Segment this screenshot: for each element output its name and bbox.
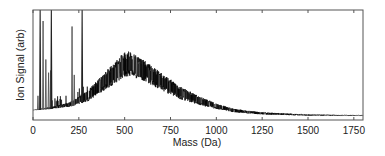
x-tick-label: 1750 bbox=[343, 125, 366, 136]
spectrum-peak bbox=[45, 60, 46, 110]
x-tick-label: 750 bbox=[162, 125, 179, 136]
x-tick-label: 1000 bbox=[205, 125, 228, 136]
x-tick-label: 1250 bbox=[251, 125, 274, 136]
x-tick-label: 500 bbox=[116, 125, 133, 136]
x-axis-ticks: 02505007501000125015001750 bbox=[30, 10, 365, 136]
spectrum-peak bbox=[51, 10, 52, 109]
spectrum-peak bbox=[74, 75, 75, 106]
x-tick-label: 250 bbox=[70, 125, 87, 136]
spectrum-peak bbox=[72, 27, 73, 107]
spectrum-peak bbox=[37, 96, 38, 110]
spectrum-peak bbox=[40, 10, 41, 110]
x-tick-label: 1500 bbox=[297, 125, 320, 136]
mass-spectrum-chart: 02505007501000125015001750 Mass (Da) Ion… bbox=[0, 0, 385, 156]
x-tick-label: 0 bbox=[30, 125, 36, 136]
x-axis-label: Mass (Da) bbox=[173, 136, 221, 148]
spectrum-peak bbox=[43, 21, 44, 109]
y-axis-label: Ion Signal (arb) bbox=[14, 29, 26, 101]
spectrum-peak bbox=[48, 73, 49, 109]
spectrum-trace bbox=[33, 10, 363, 116]
spectrum-peak bbox=[82, 10, 83, 103]
